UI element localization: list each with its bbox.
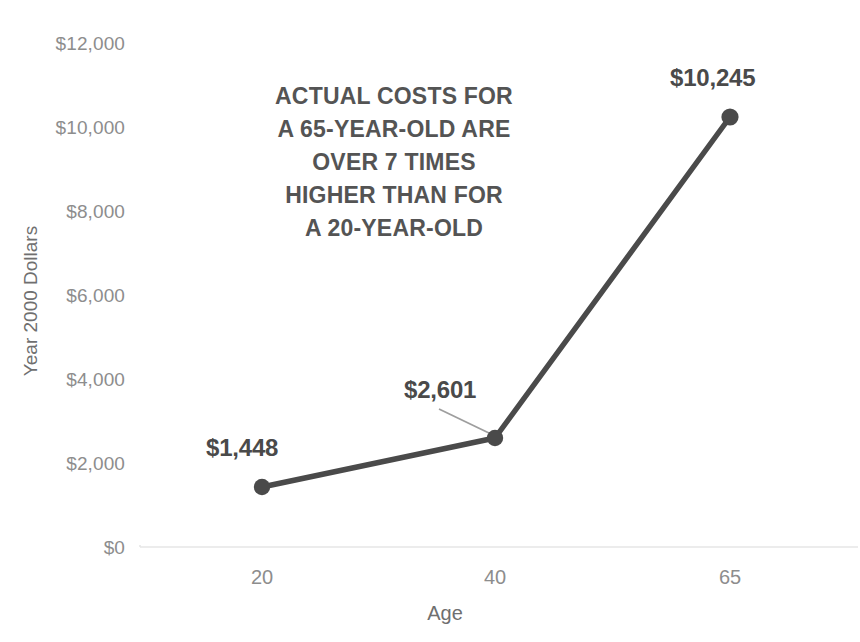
y-tick-label-12000: $12,000 <box>5 33 125 55</box>
y-tick-label-0: $0 <box>5 537 125 559</box>
y-tick-label-10000: $10,000 <box>5 117 125 139</box>
x-axis-title: Age <box>385 602 505 625</box>
annotation-line-1: ACTUAL COSTS FOR <box>244 80 544 113</box>
data-point-marker-20[interactable] <box>254 479 270 495</box>
annotation-callout: ACTUAL COSTS FOR A 65-YEAR-OLD ARE OVER … <box>244 80 544 245</box>
x-tick-label-40: 40 <box>435 566 555 589</box>
line-chart: $12,000 $10,000 $8,000 $6,000 $4,000 $2,… <box>0 0 860 642</box>
data-label-2601: $2,601 <box>404 376 476 404</box>
annotation-line-2: A 65-YEAR-OLD ARE <box>244 113 544 146</box>
data-label-1448: $1,448 <box>206 434 278 462</box>
y-axis-title: Year 2000 Dollars <box>20 206 42 396</box>
x-tick-label-65: 65 <box>670 566 790 589</box>
x-tick-label-20: 20 <box>202 566 322 589</box>
data-label-10245: $10,245 <box>670 64 755 92</box>
annotation-line-3: OVER 7 TIMES <box>244 146 544 179</box>
y-tick-label-2000: $2,000 <box>5 453 125 475</box>
data-point-marker-40[interactable] <box>487 430 503 446</box>
data-point-marker-65[interactable] <box>721 108 738 125</box>
leader-line-2601 <box>439 409 491 434</box>
annotation-line-4: HIGHER THAN FOR <box>244 179 544 212</box>
annotation-line-5: A 20-YEAR-OLD <box>244 212 544 245</box>
